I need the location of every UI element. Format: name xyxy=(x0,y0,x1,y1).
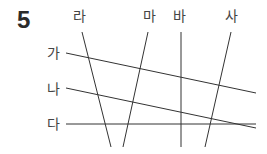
line-나 xyxy=(66,88,256,128)
line-가 xyxy=(66,53,256,93)
line-사 xyxy=(205,32,231,147)
line-마 xyxy=(123,32,148,147)
lines-diagram xyxy=(0,0,267,154)
line-라 xyxy=(82,32,111,147)
